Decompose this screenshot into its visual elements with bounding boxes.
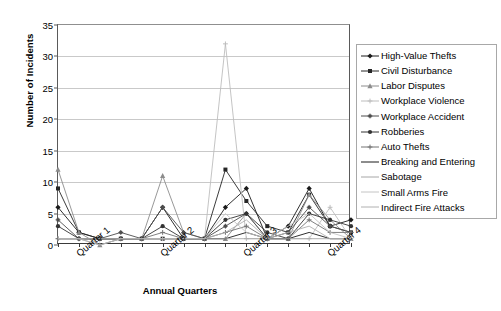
- legend-item[interactable]: Workplace Violence: [360, 94, 494, 109]
- legend-marker-icon: [360, 186, 380, 198]
- legend-item[interactable]: High-Value Thefts: [360, 48, 494, 63]
- legend-marker-icon: [360, 126, 380, 138]
- x-axis-tick-mark: [351, 243, 352, 247]
- legend-item[interactable]: Civil Disturbance: [360, 63, 494, 78]
- legend-item[interactable]: Sabotage: [360, 170, 494, 185]
- legend-item[interactable]: Indirect Fire Attacks: [360, 200, 494, 215]
- legend-item-label: Sabotage: [380, 172, 422, 182]
- y-axis-tick-label: 5: [48, 208, 53, 219]
- y-axis-tick-label: 0: [48, 240, 53, 251]
- legend-item[interactable]: Auto Thefts: [360, 139, 494, 154]
- y-axis-tick-label: 15: [42, 145, 53, 156]
- page-artifact: [434, 292, 439, 299]
- legend-item-label: Workplace Accident: [380, 112, 464, 122]
- y-axis-tick-label: 35: [42, 20, 53, 31]
- legend-marker-icon: [360, 95, 380, 107]
- plot-area: 05101520253035: [57, 24, 350, 244]
- legend-item-label: Robberies: [380, 127, 424, 137]
- legend-marker-icon: [360, 141, 380, 153]
- legend-item[interactable]: Robberies: [360, 124, 494, 139]
- legend-marker-icon: [360, 80, 380, 92]
- y-axis-title: Number of Incidents: [24, 6, 35, 156]
- legend-marker-icon: [360, 156, 380, 168]
- legend-item-label: Indirect Fire Attacks: [380, 203, 464, 213]
- legend-item-label: Breaking and Entering: [380, 157, 475, 167]
- legend-item-label: Auto Thefts: [380, 142, 429, 152]
- legend-marker-icon: [360, 201, 380, 213]
- legend-item[interactable]: Labor Disputes: [360, 78, 494, 93]
- y-axis-tick-label: 10: [42, 177, 53, 188]
- legend-marker-icon: [360, 171, 380, 183]
- y-axis-tick-label: 30: [42, 51, 53, 62]
- legend-item[interactable]: Small Arms Fire: [360, 185, 494, 200]
- legend-item-label: High-Value Thefts: [380, 51, 456, 61]
- y-axis-tick-label: 20: [42, 114, 53, 125]
- legend-item-label: Small Arms Fire: [380, 188, 448, 198]
- data-series: [56, 41, 354, 241]
- chart-root: Number of Incidents 05101520253035 Quart…: [0, 0, 501, 311]
- legend-item-label: Civil Disturbance: [380, 66, 452, 76]
- y-axis-tick-label: 25: [42, 82, 53, 93]
- legend-item[interactable]: Workplace Accident: [360, 109, 494, 124]
- legend-item[interactable]: Breaking and Entering: [360, 154, 494, 169]
- x-axis-title: Annual Quarters: [0, 285, 360, 296]
- chart-legend: High-Value TheftsCivil DisturbanceLabor …: [356, 44, 497, 219]
- legend-marker-icon: [360, 50, 380, 62]
- series-layer: [58, 25, 351, 245]
- legend-marker-icon: [360, 110, 380, 122]
- legend-item-label: Labor Disputes: [380, 81, 445, 91]
- legend-item-label: Workplace Violence: [380, 96, 465, 106]
- legend-marker-icon: [360, 65, 380, 77]
